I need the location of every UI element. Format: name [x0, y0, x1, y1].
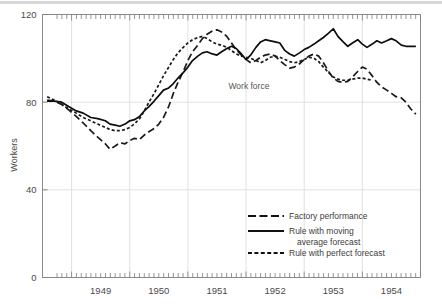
chart-background — [0, 0, 442, 307]
x-tick-label: 1951 — [206, 285, 227, 296]
x-tick-label: 1950 — [148, 285, 169, 296]
y-tick-label: 40 — [26, 184, 37, 195]
chart-container: 04080120 194919501951195219531954 Worker… — [0, 0, 442, 307]
x-tick-label: 1953 — [323, 285, 344, 296]
legend-label-2: Rule with perfect forecast — [289, 248, 386, 258]
page-top-rule — [0, 1, 442, 4]
chart-annotations: Work force — [228, 81, 269, 91]
x-tick-label: 1952 — [265, 285, 286, 296]
y-tick-label: 0 — [31, 272, 36, 283]
y-axis-title: Workers — [9, 138, 19, 172]
y-tick-label: 120 — [21, 9, 37, 20]
legend-label-1-line2: average forecast — [297, 237, 361, 247]
legend-label-0: Factory performance — [289, 211, 368, 221]
y-tick-label: 80 — [26, 97, 37, 108]
x-tick-label: 1954 — [381, 285, 402, 296]
work-force-line-chart: 04080120 194919501951195219531954 Worker… — [0, 0, 442, 307]
legend-label-1: Rule with moving — [289, 226, 354, 236]
annotation-work-force: Work force — [228, 81, 269, 91]
x-tick-label: 1949 — [90, 285, 111, 296]
